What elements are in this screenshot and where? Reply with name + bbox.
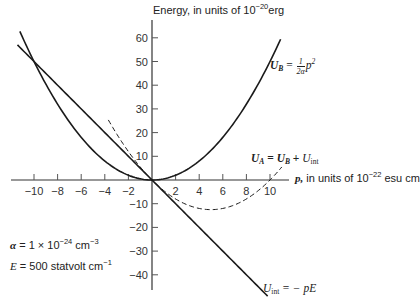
y-tick-label: −40 [129,269,148,281]
x-axis-variable: p, [295,172,303,184]
x-tick-label: 6 [220,185,226,197]
ub-curve [20,31,281,180]
y-tick-label: −30 [129,245,148,257]
y-axis-unit: erg [268,4,284,16]
x-tick-label: −8 [51,185,64,197]
x-axis-exponent: −22 [369,170,382,179]
y-axis-exponent: −20 [256,2,269,11]
alpha-unit: cm [72,239,90,251]
ub-fraction: 12α [297,57,305,76]
e-parameter: E = 500 statvolt cm−1 [10,254,112,275]
y-tick-label: −20 [129,221,148,233]
alpha-value: = 1 × 10 [16,239,59,251]
e-value: = 500 statvolt cm [17,260,104,272]
uint-rhs: = − pE [279,282,316,294]
x-tick-label: 2 [173,185,179,197]
x-tick-label: 4 [196,185,202,197]
ub-numerator: 1 [297,57,305,67]
ub-equation-label: UB = 12αp2 [270,57,315,76]
y-tick-label: 40 [136,79,148,91]
ub-denominator: 2α [297,67,305,76]
ub-equals: = [283,59,295,71]
x-axis-label-text: in units of 10 [303,172,368,184]
x-tick-label: −2 [122,185,135,197]
y-tick-label: 10 [136,150,148,162]
x-tick-label: 10 [264,185,276,197]
uint-equation-label: Uint = − pE [263,282,316,296]
x-tick-label: 8 [243,185,249,197]
e-symbol: E [10,260,17,272]
alpha-unit-exponent: −3 [90,237,99,246]
x-tick-label: −4 [99,185,112,197]
ua-equals: = [264,152,276,164]
x-tick-label: −10 [25,185,44,197]
y-axis-label: Energy, in units of 10−20erg [153,2,284,16]
ua-term2-subscript: int [311,157,319,166]
e-exponent: −1 [103,258,112,267]
y-tick-label: −10 [129,198,148,210]
y-tick-label: 30 [136,103,148,115]
alpha-exponent: −24 [60,237,73,246]
y-axis-label-text: Energy, in units of 10 [153,4,256,16]
x-axis-label: p, in units of 10−22 esu cm [295,170,420,184]
ua-equation-label: UA = UB + Uint [251,152,319,166]
ub-exponent: 2 [312,57,316,66]
ua-term2: U [302,152,310,164]
ua-plus: + [290,152,302,164]
y-tick-label: 60 [136,32,148,44]
x-axis-unit: esu cm [381,172,420,184]
ua-term1: U [277,152,285,164]
alpha-parameter: α = 1 × 10−24 cm−3 [10,233,112,254]
x-tick-label: −6 [75,185,88,197]
parameters-block: α = 1 × 10−24 cm−3 E = 500 statvolt cm−1 [10,233,112,275]
y-tick-label: 20 [136,127,148,139]
y-tick-label: 50 [136,56,148,68]
